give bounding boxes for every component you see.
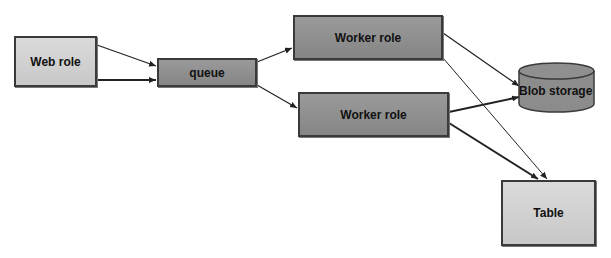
table-node: Table xyxy=(501,180,596,246)
edge-queue-to-worker-1 xyxy=(257,48,292,62)
blob-storage-label: Blob storage xyxy=(519,84,592,98)
edge-queue-to-worker-2 xyxy=(257,85,297,108)
edge-worker2-to-table xyxy=(449,123,538,179)
table-label: Table xyxy=(533,206,563,220)
architecture-diagram: Web role queue Worker role Worker role B… xyxy=(0,0,611,258)
edge-worker1-to-blob xyxy=(443,33,519,86)
web-role-label: Web role xyxy=(30,55,80,69)
worker-role-node-2: Worker role xyxy=(298,92,449,137)
queue-node: queue xyxy=(157,58,257,87)
worker-role-1-label: Worker role xyxy=(335,31,401,45)
edge-worker2-to-blob xyxy=(449,97,519,112)
edge-web-to-queue-1 xyxy=(97,45,156,66)
worker-role-node-1: Worker role xyxy=(293,15,443,60)
web-role-node: Web role xyxy=(14,36,97,87)
worker-role-2-label: Worker role xyxy=(340,108,406,122)
queue-label: queue xyxy=(189,66,224,80)
